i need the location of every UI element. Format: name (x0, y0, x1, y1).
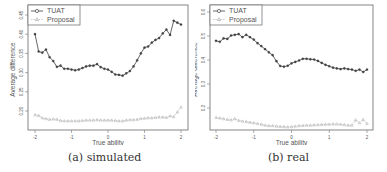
y-tick-label: 0.2 (201, 104, 206, 111)
circle-marker (38, 50, 40, 52)
circle-marker (132, 65, 134, 67)
circle-marker (294, 61, 296, 63)
legend-label-tuat: TUAT (47, 7, 65, 14)
circle-marker (89, 65, 91, 67)
circle-marker (222, 37, 224, 39)
circle-marker (355, 70, 357, 72)
line-chart-real: -2-10120.20.30.40.50.6True abilityAverag… (195, 0, 387, 145)
circle-marker (298, 59, 300, 61)
circle-marker (111, 71, 113, 73)
circle-marker (147, 45, 149, 47)
circle-marker (158, 37, 160, 39)
chart-panel-real: -2-10120.20.30.40.50.6True abilityAverag… (195, 0, 387, 145)
circle-marker (347, 68, 349, 70)
circle-marker (313, 58, 315, 60)
circle-marker (366, 69, 368, 71)
circle-marker (169, 34, 171, 36)
x-axis-label: True ability (276, 139, 308, 145)
y-tick-label: 0.40 (19, 29, 24, 38)
circle-marker (336, 67, 338, 69)
y-tick-label: 0.45 (19, 10, 24, 19)
circle-marker (140, 52, 142, 54)
circle-marker (317, 60, 319, 62)
circle-marker (358, 69, 360, 71)
circle-marker (63, 68, 65, 70)
circle-marker (321, 62, 323, 64)
caption-simulated: (a) simulated (68, 151, 141, 164)
triangle-marker (34, 113, 37, 115)
triangle-marker (52, 118, 55, 120)
triangle-marker (215, 116, 218, 118)
triangle-marker (283, 125, 286, 127)
circle-marker (34, 33, 36, 35)
circle-marker (260, 45, 262, 47)
circle-marker (302, 58, 304, 60)
y-tick-label: 0.6 (201, 8, 206, 15)
circle-marker (234, 34, 236, 36)
triangle-marker (99, 119, 102, 121)
circle-marker (264, 48, 266, 50)
legend: TUATProposal (210, 5, 262, 25)
x-tick-label: 2 (180, 135, 183, 140)
circle-marker (306, 58, 308, 60)
triangle-marker (328, 123, 331, 125)
circle-marker (96, 63, 98, 65)
x-tick-label: -2 (33, 135, 37, 140)
circle-marker (253, 39, 255, 41)
triangle-marker (313, 124, 316, 126)
circle-marker (151, 42, 153, 44)
line-chart-simulated: -2-10120.200.250.300.350.400.45True abil… (0, 0, 195, 145)
legend-label-proposal: Proposal (229, 16, 257, 24)
circle-marker (309, 58, 311, 60)
legend-circle-icon (35, 9, 38, 12)
circle-marker (268, 51, 270, 53)
circle-marker (107, 68, 109, 70)
circle-marker (332, 67, 334, 69)
circle-marker (92, 65, 94, 67)
triangle-marker (336, 123, 339, 125)
circle-marker (279, 65, 281, 67)
tuat-line (216, 34, 367, 72)
circle-marker (125, 72, 127, 74)
circle-marker (74, 69, 76, 71)
y-tick-label: 0.25 (19, 87, 24, 96)
circle-marker (114, 73, 116, 75)
circle-marker (143, 47, 145, 49)
caption-real: (b) real (268, 151, 309, 164)
circle-marker (351, 69, 353, 71)
circle-marker (226, 38, 228, 40)
x-tick-label: -1 (252, 135, 256, 140)
y-tick-label: 0.4 (201, 56, 206, 63)
circle-marker (59, 65, 61, 67)
circle-marker (67, 68, 69, 70)
circle-marker (154, 39, 156, 41)
y-tick-label: 0.3 (201, 80, 206, 87)
circle-marker (328, 65, 330, 67)
triangle-marker (59, 119, 62, 121)
circle-marker (241, 36, 243, 38)
triangle-marker (275, 125, 278, 127)
legend: TUATProposal (28, 5, 80, 25)
circle-marker (176, 22, 178, 24)
triangle-marker (132, 118, 135, 120)
circle-marker (45, 48, 47, 50)
triangle-marker (305, 124, 308, 126)
triangle-marker (268, 124, 271, 126)
circle-marker (339, 68, 341, 70)
x-tick-label: -1 (69, 135, 73, 140)
circle-marker (162, 32, 164, 34)
circle-marker (290, 62, 292, 64)
triangle-marker (107, 119, 110, 121)
circle-marker (245, 34, 247, 36)
triangle-marker (241, 120, 244, 122)
triangle-marker (85, 119, 88, 121)
circle-marker (165, 28, 167, 30)
triangle-marker (78, 120, 81, 122)
triangle-marker (256, 122, 259, 124)
circle-marker (136, 59, 138, 61)
circle-marker (41, 52, 43, 54)
y-axis-label: Average difference (195, 42, 199, 97)
y-tick-label: 0.5 (201, 32, 206, 39)
circle-marker (173, 20, 175, 22)
triangle-marker (249, 121, 252, 123)
